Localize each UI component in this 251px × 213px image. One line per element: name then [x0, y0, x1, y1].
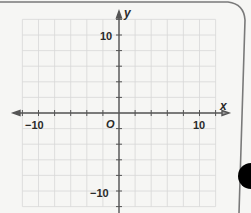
origin-label: O	[106, 118, 115, 130]
y-axis-up-arrow-icon	[117, 11, 122, 18]
y-tick-label-neg10: −10	[90, 187, 109, 199]
y-axis-label: y	[123, 6, 132, 20]
y-tick-label-pos10: 10	[100, 30, 112, 42]
x-tick-label-pos10: 10	[193, 119, 205, 131]
x-tick-label-neg10: −10	[25, 119, 44, 131]
axes	[13, 11, 229, 213]
coordinate-plane: y x O −10 10 10 −10	[0, 0, 251, 213]
card-border	[0, 2, 245, 213]
x-axis-label: x	[219, 99, 228, 113]
x-axis-left-arrow-icon	[13, 111, 20, 116]
